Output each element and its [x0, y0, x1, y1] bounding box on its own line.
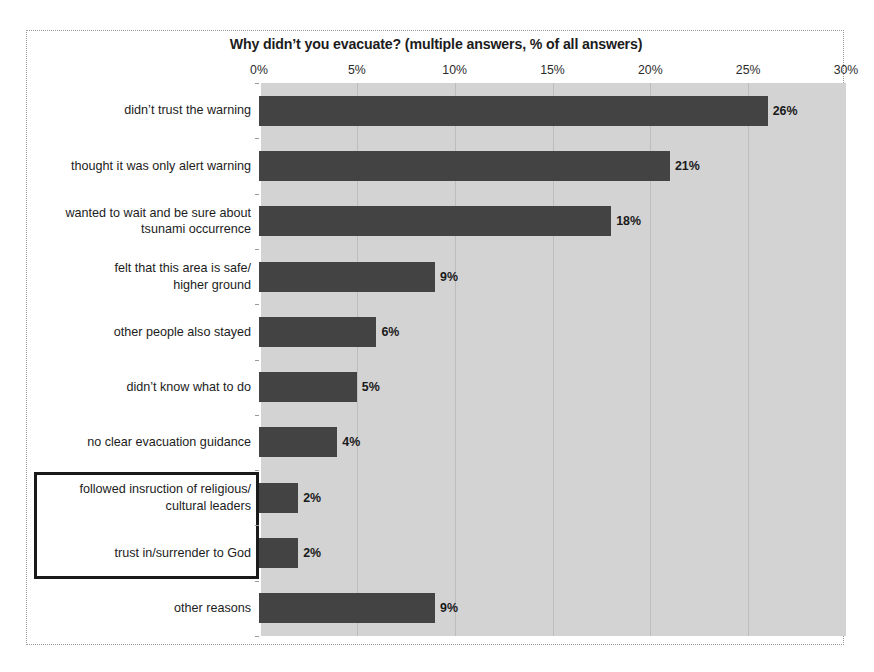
x-axis-tick-label: 0% — [250, 63, 268, 77]
category-label-line: tsunami occurrence — [141, 222, 251, 236]
category-label-line: other reasons — [174, 601, 251, 615]
y-axis-tick — [255, 470, 259, 471]
religion-categories-highlight-box — [34, 472, 259, 579]
x-axis-tick-label: 20% — [638, 63, 663, 77]
chart-title: Why didn’t you evacuate? (multiple answe… — [27, 36, 845, 52]
y-axis-tick — [255, 525, 259, 526]
bar — [259, 427, 337, 457]
y-axis-category-label: felt that this area is safe/higher groun… — [35, 260, 251, 293]
category-label-line: didn’t trust the warning — [124, 103, 251, 117]
bar — [259, 96, 768, 126]
bar-value-label: 9% — [435, 262, 458, 292]
y-axis-category-label: didn’t know what to do — [35, 379, 251, 396]
x-axis-tick-label: 25% — [736, 63, 761, 77]
gridline — [748, 83, 749, 636]
category-label-line: didn’t know what to do — [126, 380, 251, 394]
plot-area: 26%21%18%9%6%5%4%2%2%9% — [259, 83, 846, 636]
chart-figure: Why didn’t you evacuate? (multiple answe… — [0, 0, 874, 672]
category-label-line: thought it was only alert warning — [71, 159, 251, 173]
bar-value-label: 2% — [298, 538, 321, 568]
y-axis-tick — [255, 194, 259, 195]
category-label-line: other people also stayed — [114, 325, 251, 339]
y-axis-category-label: wanted to wait and be sure abouttsunami … — [35, 205, 251, 238]
bar — [259, 483, 298, 513]
y-axis-tick — [255, 249, 259, 250]
x-axis-tick-label: 10% — [442, 63, 467, 77]
y-axis-category-label: no clear evacuation guidance — [35, 434, 251, 451]
bar — [259, 538, 298, 568]
bar-value-label: 5% — [357, 372, 380, 402]
bar-value-label: 18% — [611, 206, 641, 236]
bar — [259, 317, 376, 347]
bar — [259, 593, 435, 623]
chart-frame: Why didn’t you evacuate? (multiple answe… — [26, 30, 844, 645]
y-axis-tick — [255, 360, 259, 361]
y-axis-tick — [255, 636, 259, 637]
x-axis-tick-label: 30% — [834, 63, 859, 77]
y-axis-tick — [255, 304, 259, 305]
bar — [259, 206, 611, 236]
bar-value-label: 21% — [670, 151, 700, 181]
bar-value-label: 4% — [337, 427, 360, 457]
y-axis-category-label: didn’t trust the warning — [35, 102, 251, 119]
category-label-line: higher ground — [173, 278, 251, 292]
x-axis-tick-label: 15% — [540, 63, 565, 77]
y-axis-category-label: thought it was only alert warning — [35, 158, 251, 175]
bar-value-label: 6% — [376, 317, 399, 347]
y-axis-category-label: other reasons — [35, 600, 251, 617]
category-label-line: felt that this area is safe/ — [114, 261, 251, 275]
y-axis-tick — [255, 138, 259, 139]
bar-value-label: 9% — [435, 593, 458, 623]
bar-value-label: 2% — [298, 483, 321, 513]
bar — [259, 151, 670, 181]
bar — [259, 372, 357, 402]
x-axis-tick-labels: 0%5%10%15%20%25%30% — [27, 63, 845, 81]
category-label-line: wanted to wait and be sure about — [65, 206, 251, 220]
y-axis-tick — [255, 415, 259, 416]
y-axis-tick — [255, 83, 259, 84]
y-axis-tick — [255, 581, 259, 582]
category-label-line: no clear evacuation guidance — [87, 435, 251, 449]
x-axis-tick-label: 5% — [348, 63, 366, 77]
bar-value-label: 26% — [768, 96, 798, 126]
y-axis-category-label: other people also stayed — [35, 324, 251, 341]
bar — [259, 262, 435, 292]
